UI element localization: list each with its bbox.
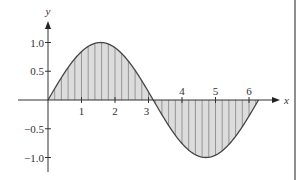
y-axis-label: y xyxy=(45,5,51,17)
y-tick-label: 0.5 xyxy=(30,65,44,77)
x-tick-label: 3 xyxy=(144,105,150,117)
y-axis-arrow-icon xyxy=(45,21,51,29)
y-axis: y 1.00.5−0.5−1.0 xyxy=(24,5,51,172)
y-tick-label: 1.0 xyxy=(30,37,44,49)
x-tick-label: 4 xyxy=(179,85,185,97)
y-tick-label: −1.0 xyxy=(24,152,44,164)
y-tick-label: −0.5 xyxy=(24,123,44,135)
x-tick-label: 5 xyxy=(213,85,219,97)
x-tick-label: 1 xyxy=(79,105,85,117)
x-axis-label: x xyxy=(283,94,289,106)
x-tick-label: 6 xyxy=(246,85,252,97)
x-tick-label: 2 xyxy=(112,105,118,117)
sine-area-chart: x 123456 y 1.00.5−0.5−1.0 xyxy=(0,0,298,180)
x-axis-arrow-icon xyxy=(272,97,280,103)
frame-border xyxy=(294,0,296,180)
